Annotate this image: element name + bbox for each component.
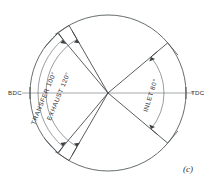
tdc-label: TDC [191,89,205,96]
transfer-closing-line [58,93,108,153]
exhaust-tick-upper [72,31,77,40]
inlet-opening-line [108,43,168,93]
inlet-lower-chord [168,131,178,143]
transfer-tick-lower [59,147,64,153]
exhaust-lower-chord [55,152,69,161]
exhaust-arrow-upper [74,39,80,43]
exhaust-upper-chord [55,25,69,34]
bdc-label: BDC [8,89,22,96]
inlet-closing-line [108,93,168,143]
transfer-lower-chord [44,138,58,153]
inlet-sector-label: INLET 80° [141,78,158,113]
inlet-tick-lower [151,129,158,135]
exhaust-arrow-lower [74,143,80,147]
transfer-upper-chord [44,33,58,48]
inlet-tick-upper [151,51,158,57]
inlet-upper-chord [168,43,178,55]
exhaust-tick-lower [72,147,77,156]
port-timing-diagram: Two-stroke port timing diagram [0,0,213,188]
figure-caption: (c) [183,164,193,174]
transfer-tick-upper [59,33,64,39]
figure-container: Two-stroke port timing diagram [0,0,213,188]
